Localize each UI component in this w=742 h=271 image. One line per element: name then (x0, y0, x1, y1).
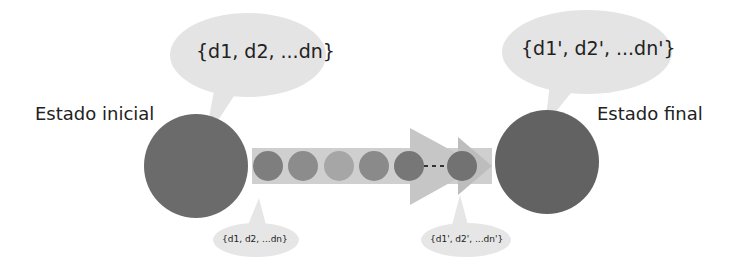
initial-state-label: Estado inicial (35, 103, 154, 124)
end-step-data-set: {d1', d2', ...dn'} (430, 234, 503, 244)
final-data-set: {d1', d2', ...dn'} (521, 37, 676, 59)
final-state-circle (495, 110, 599, 214)
initial-state-circle (144, 114, 248, 218)
initial-data-set: {d1, d2, ...dn} (196, 40, 335, 62)
end-step-bubble (421, 195, 511, 257)
start-step-data-set: {d1, d2, ...dn} (222, 234, 288, 244)
final-state-label: Estado final (597, 103, 703, 124)
